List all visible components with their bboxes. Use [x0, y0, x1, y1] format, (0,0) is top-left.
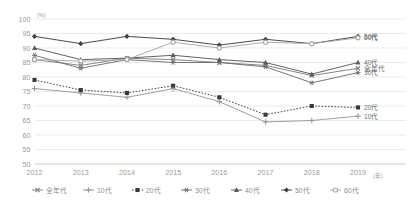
end-label-20代: 20代 — [364, 103, 378, 112]
legend-item-50代[interactable]: 50代 — [281, 186, 310, 195]
data-point — [356, 36, 360, 40]
end-label-60代: 60代 — [364, 33, 378, 42]
data-point — [171, 40, 175, 44]
end-label-40代: 40代 — [364, 58, 378, 67]
legend-item-全年代[interactable]: 全年代 — [32, 186, 67, 195]
y-axis-tick-label: 80 — [23, 73, 31, 82]
data-point — [79, 88, 83, 92]
legend-item-60代[interactable]: 60代 — [330, 186, 359, 195]
end-label-10代: 10代 — [364, 112, 378, 121]
data-point — [125, 91, 129, 95]
line-chart: 50556065707580859095100(%)20122013201420… — [0, 0, 408, 205]
data-point — [264, 113, 268, 117]
legend-item-40代[interactable]: 40代 — [231, 186, 260, 195]
legend-label: 20代 — [146, 186, 161, 195]
y-axis-tick-label: 75 — [23, 87, 31, 96]
y-axis-tick-label: 55 — [23, 145, 31, 154]
x-axis-tick-label: 2013 — [73, 168, 89, 177]
chart-canvas: 50556065707580859095100(%)20122013201420… — [0, 0, 408, 205]
y-axis-unit-label: (%) — [37, 12, 46, 18]
legend-item-30代[interactable]: 30代 — [181, 186, 210, 195]
data-point — [32, 78, 36, 82]
y-axis-tick-label: 90 — [23, 44, 31, 53]
legend-label: 10代 — [97, 186, 112, 195]
x-axis-tick-label: 2017 — [258, 168, 274, 177]
y-axis-tick-label: 65 — [23, 116, 31, 125]
x-axis-tick-label: 2018 — [304, 168, 320, 177]
series-5: 50代 — [32, 32, 378, 48]
data-point — [217, 46, 221, 50]
data-point — [310, 42, 314, 46]
y-axis-tick-label: 60 — [23, 131, 31, 140]
y-axis-tick-label: 95 — [23, 29, 31, 38]
y-axis-tick-label: 85 — [23, 58, 31, 67]
legend-label: 全年代 — [46, 186, 67, 195]
legend-label: 40代 — [245, 186, 260, 195]
x-axis-unit-label: (年) — [373, 172, 383, 180]
x-axis-tick-label: 2016 — [211, 168, 227, 177]
data-point — [217, 95, 221, 99]
y-axis-tick-label: 70 — [23, 102, 31, 111]
data-point — [32, 58, 36, 62]
series-line — [35, 80, 359, 115]
data-point — [32, 34, 37, 39]
legend-item-20代[interactable]: 20代 — [132, 186, 161, 195]
y-axis-tick-label: 100 — [19, 15, 31, 24]
legend-marker — [333, 188, 337, 192]
x-axis-tick-label: 2019 — [350, 168, 366, 177]
data-point — [310, 104, 314, 108]
legend-marker — [135, 188, 139, 192]
legend-item-10代[interactable]: 10代 — [83, 186, 112, 195]
data-point — [356, 105, 360, 109]
legend-label: 60代 — [344, 186, 359, 195]
x-axis-tick-label: 2015 — [165, 168, 181, 177]
data-point — [171, 84, 175, 88]
x-axis-tick-label: 2014 — [119, 168, 135, 177]
x-axis-tick-label: 2012 — [27, 168, 43, 177]
data-point — [79, 59, 83, 63]
data-point — [124, 34, 129, 39]
x-axis-labels-group: 20122013201420152016201720182019(年) — [27, 168, 383, 180]
series-line — [35, 89, 359, 122]
legend-label: 50代 — [295, 186, 310, 195]
data-point — [125, 58, 129, 62]
legend-label: 30代 — [195, 186, 210, 195]
data-point — [264, 40, 268, 44]
end-label-30代: 30代 — [364, 68, 378, 77]
data-point — [78, 41, 83, 46]
legend-marker — [284, 187, 289, 192]
legend: 全年代10代20代30代40代50代60代 — [32, 186, 359, 195]
